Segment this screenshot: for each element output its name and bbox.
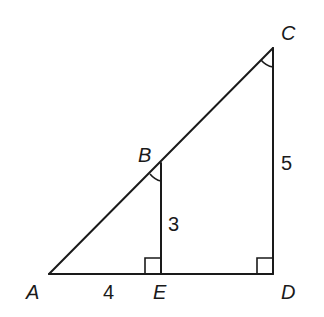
right-angle-mark-D (257, 258, 273, 274)
geometry-diagram: C B A E D 5 3 4 (0, 0, 324, 317)
label-point-C: C (281, 22, 296, 44)
length-label-AE: 4 (103, 281, 114, 303)
length-label-CD: 5 (281, 152, 292, 174)
angle-arc-B (150, 174, 161, 181)
right-angle-mark-E (145, 258, 161, 274)
label-point-D: D (281, 281, 295, 303)
label-point-A: A (25, 281, 39, 303)
label-point-E: E (153, 281, 167, 303)
length-label-BE: 3 (168, 213, 179, 235)
label-point-B: B (138, 144, 151, 166)
angle-arc-C (261, 60, 273, 67)
